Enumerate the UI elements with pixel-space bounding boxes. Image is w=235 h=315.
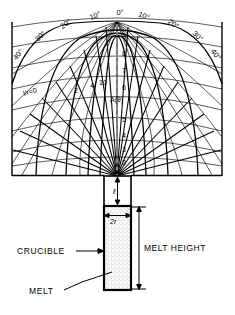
curve-label-4: 4 bbox=[90, 82, 94, 89]
curve-label-lr0: l/r=0 bbox=[22, 86, 37, 97]
angle-label-right-10: 10° bbox=[137, 9, 151, 22]
angle-label-left-20: 20° bbox=[58, 17, 72, 31]
radial-tick-2: 2 bbox=[122, 159, 126, 166]
radial-tick-8: 8 bbox=[122, 50, 126, 57]
angle-label-right-30: 30° bbox=[191, 29, 205, 43]
radial-tick-3: 3 bbox=[122, 146, 126, 153]
crucible-melt-body bbox=[104, 206, 131, 290]
melt-height-label: MELT HEIGHT bbox=[144, 243, 206, 253]
radial-tick-9: 9 bbox=[122, 33, 126, 40]
crucible-view-factor-diagram: 10° 20° 30° 40° 0° 10° 20° 30° 40° 9 8 7… bbox=[0, 0, 235, 315]
angle-label-left-10: 10° bbox=[88, 9, 102, 22]
angle-label-center-0: 0° bbox=[116, 8, 123, 17]
diameter-label: 2r bbox=[109, 218, 117, 225]
radial-tick-4: 4 bbox=[122, 132, 126, 139]
radial-tick-7: 7 bbox=[122, 67, 126, 74]
radial-tick-5: 5 bbox=[122, 116, 126, 123]
angle-label-right-20: 20° bbox=[166, 17, 180, 31]
curve-label-2: 2 bbox=[74, 87, 78, 94]
neck-length-label: ℓ bbox=[112, 187, 116, 196]
melt-label: MELT bbox=[29, 286, 53, 296]
curve-label-a-theta: A(θ) bbox=[110, 96, 123, 104]
figure-canvas: 10° 20° 30° 40° 0° 10° 20° 30° 40° 9 8 7… bbox=[0, 0, 235, 315]
crucible-label: CRUCIBLE bbox=[17, 246, 65, 256]
curve-label-10: 10 bbox=[99, 79, 107, 86]
radial-tick-6: 6 bbox=[122, 84, 126, 91]
crucible-callout-leader bbox=[76, 249, 104, 254]
